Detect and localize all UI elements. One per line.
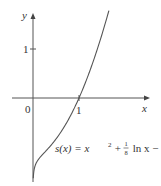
fraction-numerator: 1	[125, 140, 128, 147]
fraction-denominator: 8	[125, 149, 128, 156]
x-axis-arrow-icon	[144, 96, 150, 101]
function-rest: ln x − 1	[130, 142, 161, 154]
y-axis-arrow-icon	[31, 13, 36, 19]
function-plot: y x 0 1 1 s(x) = x 2 + 1 8 ln x − 1	[0, 0, 161, 186]
svg-text:s(x) = x: s(x) = x	[55, 142, 89, 155]
function-annotation: s(x) = x 2 + 1 8 ln x − 1	[55, 140, 161, 156]
function-plus: +	[112, 142, 124, 154]
origin-label: 0	[25, 103, 31, 115]
x-tick-label-1: 1	[76, 104, 82, 116]
x-axis-label: x	[141, 102, 147, 114]
function-lhs: s(x) = x	[55, 142, 89, 155]
y-axis-label: y	[21, 9, 27, 21]
y-tick-label-1: 1	[23, 43, 29, 55]
